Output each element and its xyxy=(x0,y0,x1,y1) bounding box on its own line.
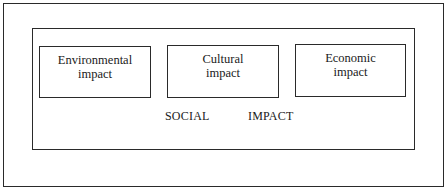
box-label-line2: impact xyxy=(58,67,132,81)
box-label-line2: impact xyxy=(203,66,244,80)
cultural-impact-box: Cultural impact xyxy=(167,45,279,98)
caption-impact: IMPACT xyxy=(248,109,293,124)
economic-impact-box: Economic impact xyxy=(295,44,406,97)
caption-social: SOCIAL xyxy=(165,109,210,124)
box-label-line1: Cultural xyxy=(203,52,244,66)
box-label-line1: Economic xyxy=(325,51,376,65)
box-label-line1: Environmental xyxy=(58,53,132,67)
environmental-impact-box: Environmental impact xyxy=(39,46,151,98)
box-label-line2: impact xyxy=(325,65,376,79)
